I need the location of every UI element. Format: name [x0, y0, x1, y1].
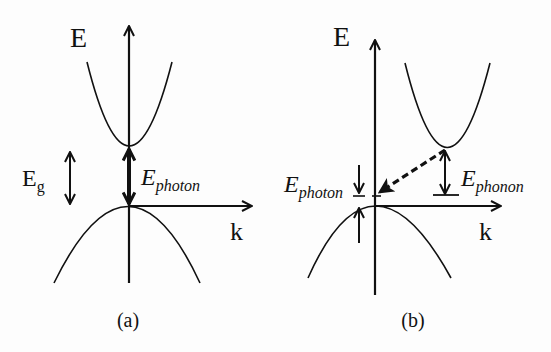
phonon-label-b: Ephonon [460, 165, 524, 196]
indirect-transition-arrow [380, 150, 445, 192]
photon-label-a: Ephoton [140, 164, 200, 195]
panel-b: E k Ephoton Ephonon (b) [283, 21, 524, 332]
valence-band-a [54, 207, 200, 284]
valence-band-b [308, 206, 451, 278]
panel-a: E k Eg Ephoton (a) [22, 22, 252, 332]
caption-a: (a) [117, 309, 139, 332]
caption-b: (b) [401, 309, 424, 332]
k-axis-label-b: k [479, 217, 492, 246]
photon-label-b: Ephoton [283, 171, 343, 202]
energy-axis-label-a: E [70, 22, 87, 53]
energy-axis-label-b: E [333, 21, 350, 52]
bandgap-label-a: Eg [22, 165, 45, 196]
k-axis-label-a: k [230, 217, 243, 246]
conduction-band-b [405, 63, 490, 148]
band-diagram-figure: E k Eg Ephoton (a) E k Ephoton Ephonon (… [0, 0, 551, 352]
